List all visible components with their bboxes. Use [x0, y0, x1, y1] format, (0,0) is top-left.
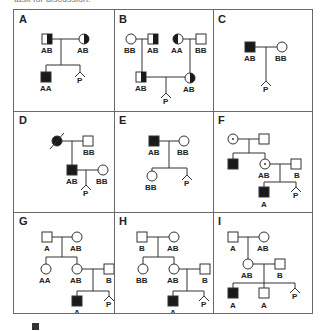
female-unaffected-symbol [72, 232, 82, 242]
svg-text:P: P [83, 189, 89, 198]
header-text-fragment: task for discussion. [14, 0, 91, 4]
male-unaffected-symbol [228, 232, 238, 242]
male-affected-symbol [168, 296, 178, 306]
panel-label: D [19, 114, 27, 126]
panel-label: C [218, 13, 226, 25]
female-unaffected-symbol [169, 232, 179, 242]
svg-text:P: P [184, 179, 190, 188]
panel-label: F [218, 114, 225, 126]
female-unaffected-symbol [41, 264, 51, 274]
male-unaffected-symbol [196, 34, 206, 44]
female-unaffected-symbol [179, 136, 189, 146]
male-affected-symbol [245, 42, 255, 52]
svg-text:AB: AB [244, 54, 256, 63]
footer-text-fragment [32, 321, 43, 331]
svg-text:B: B [294, 171, 300, 180]
panel-label: G [19, 215, 28, 227]
male-unaffected-symbol [83, 136, 93, 146]
male-affected-symbol [259, 187, 269, 197]
svg-text:A: A [44, 244, 50, 253]
svg-text:AB: AB [66, 177, 78, 186]
svg-text:AB: AB [183, 85, 195, 94]
svg-text:A: A [74, 308, 80, 313]
pedigree-panel-d: D BB AB BB P [14, 111, 114, 212]
svg-text:BB: BB [145, 183, 157, 192]
pedigree-panel-f: F AB [213, 111, 312, 212]
male-unaffected-symbol [104, 264, 114, 274]
svg-text:AB: AB [167, 244, 179, 253]
female-carrier-dot-symbol [260, 159, 270, 169]
svg-text:B: B [277, 271, 283, 280]
male-affected-symbol [41, 72, 51, 82]
male-carrier-symbol [136, 72, 146, 82]
male-unaffected-symbol [291, 159, 301, 169]
male-affected-symbol [149, 136, 159, 146]
panel-label: B [119, 13, 127, 25]
pedigree-panel-a: A AB AB AA P [14, 10, 114, 111]
pedigree-panel-g: G A AB AA AB B A [14, 212, 114, 313]
panel-label: A [19, 13, 27, 25]
svg-text:BB: BB [177, 148, 189, 157]
female-unaffected-symbol [169, 264, 179, 274]
svg-text:BB: BB [195, 46, 207, 55]
svg-text:B: B [139, 244, 145, 253]
svg-text:AB: AB [167, 276, 179, 285]
female-unaffected-symbol [126, 34, 136, 44]
svg-text:AB: AB [241, 271, 253, 280]
svg-text:BB: BB [83, 148, 95, 157]
svg-text:AA: AA [40, 84, 52, 93]
pedigree-panel-c: C AB BB P [213, 10, 312, 111]
svg-text:BB: BB [136, 276, 148, 285]
svg-text:P: P [163, 97, 169, 106]
female-unaffected-symbol [147, 171, 157, 181]
female-unaffected-symbol [72, 264, 82, 274]
female-carrier-dot-symbol [228, 134, 238, 144]
svg-text:AA: AA [171, 46, 183, 55]
pedigree-panel-h: H B AB BB AB B A [114, 212, 213, 313]
panel-label: I [218, 215, 221, 227]
panel-label: E [119, 114, 126, 126]
svg-text:AB: AB [135, 84, 147, 93]
female-unaffected-symbol [259, 232, 269, 242]
male-unaffected-symbol [42, 232, 52, 242]
svg-text:P: P [293, 191, 299, 200]
male-affected-symbol [228, 159, 238, 169]
svg-text:AB: AB [70, 276, 82, 285]
female-deceased-affected-symbol [50, 133, 64, 149]
male-carrier-symbol [148, 34, 158, 44]
svg-text:AB: AB [147, 46, 159, 55]
svg-text:AA: AA [39, 276, 51, 285]
panel-label: H [119, 215, 127, 227]
bullet-square-icon [32, 323, 39, 330]
svg-text:B: B [202, 276, 208, 285]
male-unaffected-symbol [259, 288, 269, 298]
male-affected-symbol [228, 288, 238, 298]
svg-text:BB: BB [96, 177, 108, 186]
svg-text:A: A [170, 308, 176, 313]
female-unaffected-symbol [98, 165, 108, 175]
svg-text:P: P [263, 85, 269, 94]
svg-text:AB: AB [41, 46, 53, 55]
female-carrier-symbol [173, 34, 183, 44]
svg-text:P: P [106, 300, 112, 309]
svg-text:AB: AB [77, 46, 89, 55]
male-unaffected-symbol [200, 264, 210, 274]
male-affected-symbol [72, 296, 82, 306]
female-unaffected-symbol [277, 42, 287, 52]
male-carrier-symbol [42, 34, 52, 44]
svg-text:AB: AB [258, 171, 270, 180]
female-unaffected-symbol [243, 259, 253, 269]
svg-text:AB: AB [148, 148, 160, 157]
svg-text:BB: BB [275, 54, 287, 63]
pedigree-panel-b: B BB AB AA BB [114, 10, 213, 111]
female-carrier-symbol [79, 34, 89, 44]
pedigree-grid: A AB AB AA P [13, 9, 313, 314]
svg-text:P: P [292, 292, 298, 301]
svg-text:B: B [106, 276, 112, 285]
svg-text:A: A [230, 301, 236, 310]
male-unaffected-symbol [275, 259, 285, 269]
svg-text:A: A [230, 244, 236, 253]
svg-text:BB: BB [124, 46, 136, 55]
svg-text:P: P [77, 76, 83, 85]
male-affected-symbol [67, 165, 77, 175]
